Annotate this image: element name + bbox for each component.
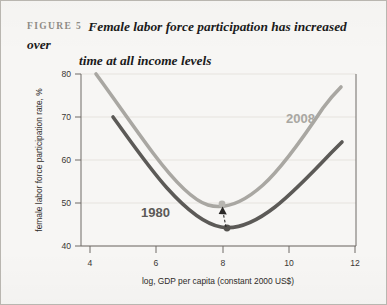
x-tick-label-4: 4 xyxy=(88,258,93,268)
y-tick-label-60: 60 xyxy=(61,155,71,165)
x-tick-label-6: 6 xyxy=(154,258,159,268)
marker-1980-point xyxy=(224,225,231,232)
x-tick-label-8: 8 xyxy=(221,258,226,268)
figure-container: FIGURE 5Female labor force participation… xyxy=(0,0,387,305)
marker-2008-point xyxy=(219,201,226,208)
x-tick-label-12: 12 xyxy=(350,258,360,268)
gridlines xyxy=(81,74,356,246)
series-line-2008 xyxy=(96,74,341,206)
y-axis-title: female labor force participation rate, % xyxy=(34,88,44,232)
series-label-1980: 1980 xyxy=(141,205,170,220)
series-label-2008: 2008 xyxy=(286,111,315,126)
x-axis-title: log, GDP per capita (constant 2000 US$) xyxy=(142,276,294,286)
y-tick-label-50: 50 xyxy=(61,198,71,208)
chart-plot: 40 50 60 70 80 4 6 8 10 12 log, GDP per … xyxy=(1,1,387,305)
y-tick-label-80: 80 xyxy=(61,69,71,79)
y-tick-label-70: 70 xyxy=(61,112,71,122)
x-tick-label-10: 10 xyxy=(284,258,294,268)
y-tick-label-40: 40 xyxy=(61,241,71,251)
y-axis-ticks: 40 50 60 70 80 xyxy=(61,69,81,251)
x-axis-ticks: 4 6 8 10 12 xyxy=(88,246,360,268)
